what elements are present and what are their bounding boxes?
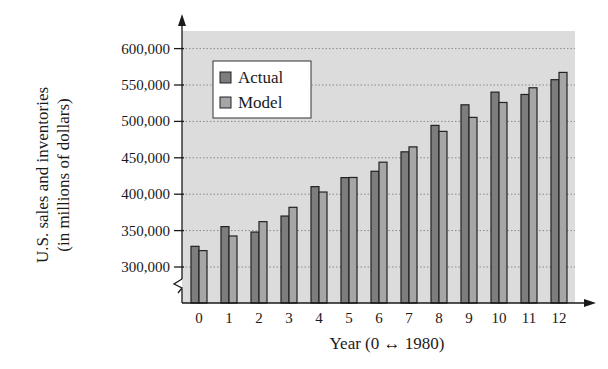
axis-break-icon (174, 279, 182, 293)
x-axis-arrow-icon (584, 299, 596, 307)
x-axis-title: Year (0 ↔ 1980) (330, 334, 445, 353)
y-tick-label: 600,000 (121, 41, 170, 57)
y-tick-label: 300,000 (121, 259, 170, 275)
bar-actual (491, 92, 499, 303)
bar-group-8 (431, 125, 447, 303)
y-tick-label: 450,000 (121, 150, 170, 166)
y-tick-label: 400,000 (121, 186, 170, 202)
bar-actual (551, 80, 559, 303)
x-tick-label: 2 (255, 310, 263, 326)
legend-label-model: Model (238, 93, 283, 112)
x-tick-label: 1 (225, 310, 233, 326)
bar-model (409, 147, 417, 303)
x-tick-label: 10 (492, 310, 507, 326)
bar-actual (221, 227, 229, 303)
bar-model (499, 102, 507, 303)
y-axis-ticks: 300,000350,000400,000450,000500,000550,0… (121, 41, 184, 275)
bar-group-9 (461, 105, 477, 303)
x-axis-ticks: 0123456789101112 (195, 310, 566, 326)
bar-model (469, 117, 477, 303)
x-tick-label: 6 (375, 310, 383, 326)
bar-actual (311, 187, 319, 303)
bar-actual (371, 171, 379, 303)
bar-actual (431, 125, 439, 303)
x-tick-label: 7 (405, 310, 413, 326)
bar-model (349, 177, 357, 303)
bar-actual (401, 152, 409, 303)
bar-group-12 (551, 72, 567, 303)
bar-actual (461, 105, 469, 303)
legend-swatch-model (220, 97, 231, 108)
bar-group-10 (491, 92, 507, 303)
bar-model (439, 131, 447, 303)
bar-group-0 (191, 246, 207, 303)
legend-label-actual: Actual (238, 68, 284, 87)
x-tick-label: 8 (435, 310, 443, 326)
bar-actual (191, 246, 199, 303)
bar-model (319, 192, 327, 303)
y-axis-title-line2: (in millions of dollars) (54, 98, 73, 251)
bar-chart: 300,000350,000400,000450,000500,000550,0… (0, 0, 608, 369)
bar-group-3 (281, 207, 297, 303)
bar-group-11 (521, 88, 537, 303)
bar-model (379, 162, 387, 303)
bar-group-1 (221, 227, 237, 303)
bar-group-7 (401, 147, 417, 303)
legend: ActualModel (213, 61, 311, 118)
x-tick-label: 3 (285, 310, 293, 326)
bar-actual (281, 216, 289, 303)
legend-swatch-actual (220, 72, 231, 83)
bar-actual (521, 94, 529, 303)
bar-group-5 (341, 177, 357, 303)
y-axis-title-line1: U.S. sales and inventories (33, 87, 52, 263)
bar-group-2 (251, 222, 267, 303)
y-tick-label: 350,000 (121, 223, 170, 239)
bar-group-4 (311, 187, 327, 303)
y-axis-title: U.S. sales and inventories (in millions … (33, 87, 73, 263)
bar-model (259, 222, 267, 303)
y-axis-arrow-icon (178, 14, 186, 26)
bar-model (529, 88, 537, 303)
x-tick-label: 5 (345, 310, 353, 326)
bar-group-6 (371, 162, 387, 303)
x-tick-label: 9 (465, 310, 473, 326)
y-tick-label: 500,000 (121, 113, 170, 129)
bar-model (229, 236, 237, 303)
x-tick-label: 11 (522, 310, 536, 326)
bar-model (559, 72, 567, 303)
x-tick-label: 12 (552, 310, 567, 326)
bar-actual (341, 178, 349, 303)
bar-actual (251, 232, 259, 303)
bar-model (199, 251, 207, 303)
x-tick-label: 4 (315, 310, 323, 326)
x-tick-label: 0 (195, 310, 203, 326)
y-tick-label: 550,000 (121, 77, 170, 93)
bar-model (289, 207, 297, 303)
